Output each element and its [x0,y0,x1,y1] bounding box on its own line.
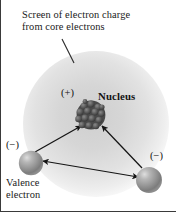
screen-caption: Screen of electron charge from core elec… [22,9,130,34]
valence-electron-left [19,151,43,175]
diagram-figure: Screen of electron charge from core elec… [0,0,176,212]
valence-caption-line1: Valence [6,177,40,189]
screen-caption-line1: Screen of electron charge [22,9,130,21]
valence-caption-line2: electron [6,189,40,201]
electron-charge-label-left: (−) [6,139,19,151]
valence-electron-right [136,167,162,193]
screen-caption-line2: from core electrons [22,21,130,33]
valence-electron-caption: Valence electron [6,177,40,202]
nucleus-charge-label: (+) [61,87,74,99]
electron-charge-label-right: (−) [150,150,163,162]
nucleus-label: Nucleus [98,90,135,103]
